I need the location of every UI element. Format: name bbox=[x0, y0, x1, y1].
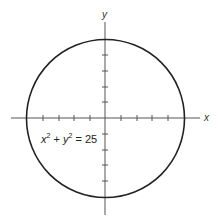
circle-diagram: y x x2 + y2 = 25 bbox=[0, 0, 218, 222]
x-axis-label: x bbox=[204, 112, 209, 123]
y-axis-label: y bbox=[102, 9, 107, 20]
eq-plus: + bbox=[50, 133, 63, 145]
equation-label: x2 + y2 = 25 bbox=[41, 132, 97, 145]
eq-equals: = 25 bbox=[72, 133, 97, 145]
diagram-svg bbox=[0, 0, 218, 222]
